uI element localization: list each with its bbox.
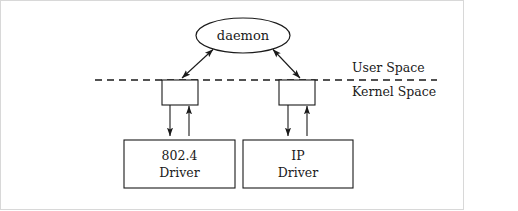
driver-ip-label-line2: Driver	[278, 165, 318, 180]
user-space-label: User Space	[352, 60, 425, 75]
diagram-canvas: daemon 802.4 Driver IP Driver User Space…	[0, 0, 518, 211]
right-interface-box[interactable]	[279, 80, 315, 105]
architecture-diagram: daemon 802.4 Driver IP Driver User Space…	[0, 0, 518, 211]
left-interface-box[interactable]	[162, 80, 198, 105]
driver-ip-label-line1: IP	[291, 148, 304, 163]
daemon-label: daemon	[217, 28, 270, 43]
daemon-right-bidirectional-arrow	[273, 50, 300, 79]
driver-8024-label-line2: Driver	[159, 165, 199, 180]
driver-8024-label-line1: 802.4	[162, 148, 198, 163]
daemon-left-bidirectional-arrow	[182, 50, 213, 79]
kernel-space-label: Kernel Space	[352, 84, 436, 99]
